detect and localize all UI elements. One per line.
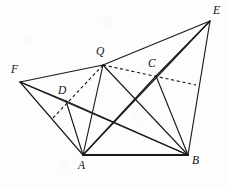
vertex-label-b: B xyxy=(192,155,199,167)
segment-FA xyxy=(20,82,83,155)
vertex-label-e: E xyxy=(213,5,220,17)
geometry-figure: ABCDEFQ xyxy=(0,0,229,188)
segment-DA xyxy=(66,101,83,155)
vertex-label-d: D xyxy=(58,85,66,97)
segment-QE xyxy=(103,21,210,65)
segment-QB xyxy=(103,65,188,155)
segment-FQ xyxy=(20,65,103,82)
vertex-label-c: C xyxy=(148,58,156,70)
vertex-label-a: A xyxy=(78,160,85,172)
solid-edges-group xyxy=(20,21,210,155)
vertex-label-q: Q xyxy=(96,46,104,58)
vertex-label-f: F xyxy=(11,64,18,76)
